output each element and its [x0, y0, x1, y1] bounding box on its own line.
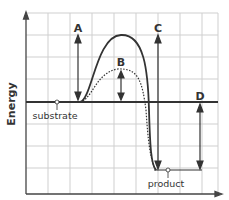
catalyzed-curve — [80, 69, 156, 170]
arrow-B — [118, 71, 124, 100]
label-D: D — [195, 90, 204, 103]
arrow-up-icon — [118, 71, 124, 78]
label-B: B — [117, 56, 125, 69]
arrow-down-icon — [75, 92, 81, 100]
substrate-marker — [55, 100, 59, 110]
arrow-A — [75, 35, 81, 100]
arrow-up-icon — [155, 35, 161, 43]
energy-diagram: Energy A B C D substrate — [0, 0, 229, 200]
arrow-up-icon — [75, 35, 81, 43]
grid — [26, 13, 218, 194]
product-marker — [166, 168, 170, 178]
x-axis-arrow-icon — [215, 192, 222, 197]
label-substrate: substrate — [33, 110, 78, 121]
label-C: C — [154, 22, 162, 35]
label-A: A — [74, 22, 83, 35]
axes — [24, 12, 223, 197]
label-product: product — [148, 178, 185, 189]
y-axis-label: Energy — [5, 82, 18, 125]
arrow-down-icon — [118, 93, 124, 100]
